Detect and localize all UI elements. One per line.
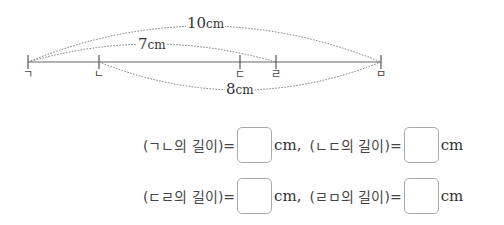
point-label-mieum: ㅁ [376,69,386,80]
unit-label: cm, [274,136,301,154]
question-expr-rieul-mieum: (ㄹㅁ의 길이)= [310,186,402,206]
answer-box-giyeok-nieun[interactable] [237,127,272,163]
question-row-1: (ㄱㄴ의 길이)= cm, (ㄴㄷ의 길이)= cm [143,127,471,163]
unit-label: cm [441,136,464,154]
question-row-2: (ㄷㄹ의 길이)= cm, (ㄹㅁ의 길이)= cm [143,178,471,214]
answer-box-digeut-rieul[interactable] [237,178,272,214]
question-expr-giyeok-nieun: (ㄱㄴ의 길이)= [143,135,235,155]
point-label-rieul: ㄹ [271,69,281,80]
measure-label-10cm: 10cm [186,16,225,31]
question-expr-digeut-rieul: (ㄷㄹ의 길이)= [143,186,235,206]
unit-label: cm [441,187,464,205]
answer-box-rieul-mieum[interactable] [404,178,439,214]
answer-box-nieun-digeut[interactable] [404,127,439,163]
point-label-nieun: ㄴ [94,69,104,80]
unit-label: cm, [274,187,301,205]
point-label-giyeok: ㄱ [23,69,33,80]
question-expr-nieun-digeut: (ㄴㄷ의 길이)= [310,135,402,155]
measure-label-7cm: 7cm [137,37,167,52]
measure-label-8cm: 8cm [225,82,255,97]
point-label-digeut: ㄷ [235,69,245,80]
